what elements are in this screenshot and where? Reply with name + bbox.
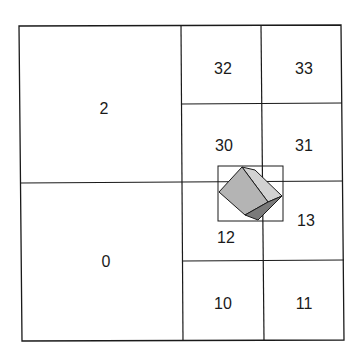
horizontal-split-lower [183,260,344,261]
cell-label-2: 2 [100,100,109,117]
cell-label-32: 32 [214,60,232,77]
vertical-split-main [181,25,183,341]
cell-label-12: 12 [217,229,235,246]
cell-label-13: 13 [297,212,315,229]
cell-label-0: 0 [102,253,111,270]
cell-label-33: 33 [295,60,313,77]
quadtree-diagram: 2 0 32 33 30 31 12 13 10 11 [0,0,360,358]
cube-icon [219,167,282,220]
cell-label-31: 31 [295,137,313,154]
horizontal-split-upper [181,103,342,104]
cell-label-10: 10 [214,295,232,312]
cell-label-30: 30 [215,137,233,154]
cell-label-11: 11 [296,295,313,312]
